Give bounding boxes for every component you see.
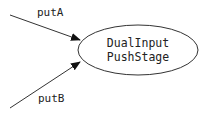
edge-putA: putA (10, 6, 80, 40)
diagram-canvas: putA putB DualInput PushStage (0, 0, 210, 115)
node-label-line2: PushStage (107, 50, 169, 64)
node-dual-input-push-stage: DualInput PushStage (78, 25, 198, 75)
edge-label-putA: putA (37, 6, 64, 19)
edge-label-putB: putB (38, 92, 65, 105)
node-label-line1: DualInput (107, 36, 169, 50)
edge-putB: putB (10, 62, 80, 108)
